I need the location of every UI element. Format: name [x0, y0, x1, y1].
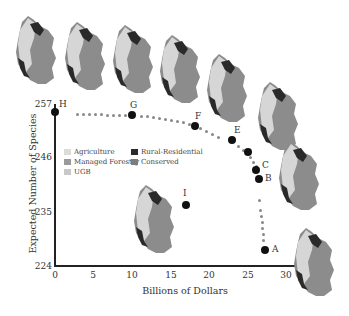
landscape-map-thumbnails [0, 0, 349, 316]
map-h [16, 16, 56, 84]
